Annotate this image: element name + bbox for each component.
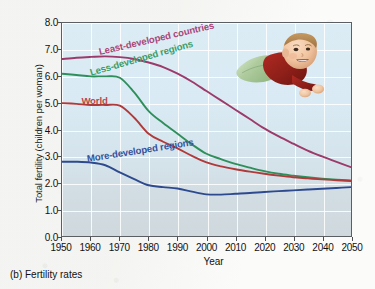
x-tick-label: 1970 bbox=[109, 242, 130, 253]
figure-caption: (b) Fertility rates bbox=[10, 269, 82, 280]
x-tick-label: 2030 bbox=[283, 242, 304, 253]
y-tick-label: 3.0 bbox=[32, 151, 58, 162]
x-tick-label: 1990 bbox=[167, 242, 188, 253]
y-tick-mark bbox=[57, 183, 61, 184]
series-line bbox=[62, 103, 351, 181]
x-tick-mark bbox=[323, 237, 324, 241]
x-axis-label: Year bbox=[0, 256, 375, 267]
y-tick-mark bbox=[57, 210, 61, 211]
x-tick-mark bbox=[61, 237, 62, 241]
y-tick-mark bbox=[57, 103, 61, 104]
x-tick-mark bbox=[148, 237, 149, 241]
x-tick-mark bbox=[90, 237, 91, 241]
x-tick-label: 2040 bbox=[312, 242, 333, 253]
x-tick-label: 1960 bbox=[80, 242, 101, 253]
y-tick-mark bbox=[57, 49, 61, 50]
x-tick-mark bbox=[119, 237, 120, 241]
x-tick-mark bbox=[294, 237, 295, 241]
y-tick-mark bbox=[57, 156, 61, 157]
x-tick-label: 2020 bbox=[254, 242, 275, 253]
fertility-rates-figure: Total fertility (children per woman) 0.0… bbox=[0, 0, 375, 289]
y-tick-mark bbox=[57, 76, 61, 77]
y-tick-label: 2.0 bbox=[32, 178, 58, 189]
y-tick-label: 0.0 bbox=[32, 232, 58, 243]
y-tick-mark bbox=[57, 22, 61, 23]
x-tick-label: 2000 bbox=[196, 242, 217, 253]
y-tick-label: 6.0 bbox=[32, 70, 58, 81]
y-tick-label: 8.0 bbox=[32, 17, 58, 28]
x-tick-mark bbox=[177, 237, 178, 241]
y-tick-label: 4.0 bbox=[32, 124, 58, 135]
x-tick-mark bbox=[207, 237, 208, 241]
y-tick-label: 7.0 bbox=[32, 43, 58, 54]
series-label: World bbox=[81, 95, 107, 106]
x-tick-mark bbox=[265, 237, 266, 241]
x-tick-mark bbox=[236, 237, 237, 241]
x-tick-label: 1980 bbox=[138, 242, 159, 253]
x-tick-mark bbox=[352, 237, 353, 241]
x-tick-label: 1950 bbox=[50, 242, 71, 253]
y-tick-label: 5.0 bbox=[32, 97, 58, 108]
x-tick-label: 2010 bbox=[225, 242, 246, 253]
x-tick-label: 2050 bbox=[341, 242, 362, 253]
y-tick-mark bbox=[57, 130, 61, 131]
y-tick-label: 1.0 bbox=[32, 205, 58, 216]
